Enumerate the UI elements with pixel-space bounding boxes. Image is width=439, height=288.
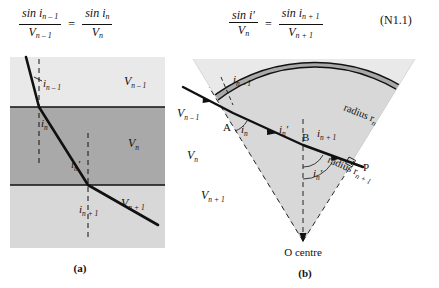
equation-left-rhs: sin in Vn: [82, 6, 112, 43]
equation-left-rhs-denominator: Vn: [82, 25, 112, 43]
panel-a-plane-layers: Vn – 1 Vn Vn + 1 in – 1 in in′ in + 1: [8, 55, 168, 250]
equation-left-rhs-numerator: sin in: [82, 6, 112, 25]
equation-right-lhs: sin i′ Vn: [229, 8, 258, 41]
equation-left-lhs-denominator: Vn – 1: [19, 25, 61, 43]
equation-right-rhs: sin in + 1 Vn + 1: [279, 6, 323, 43]
equation-right-rhs-numerator: sin in + 1: [279, 6, 323, 25]
panel-b-centre-label: O centre: [284, 246, 322, 258]
panel-b-caption: (b): [298, 267, 311, 279]
equation-right-relation: =: [263, 17, 274, 32]
panel-b-point-label-p: P: [363, 161, 369, 173]
equation-right-lhs-numerator: sin i′: [229, 8, 258, 23]
panel-a-caption: (a): [74, 262, 87, 274]
panel-b-velocity-label-bottom: Vn + 1: [201, 188, 225, 204]
equation-left-lhs-numerator: sin in – 1: [19, 6, 61, 25]
panel-b-point-label-b: B: [302, 131, 309, 143]
panel-b-point-label-a: A: [223, 121, 231, 133]
equation-left: sin in – 1 Vn – 1 = sin in Vn: [18, 6, 113, 43]
equation-left-relation: =: [66, 17, 77, 32]
equation-number: (N1.1): [380, 13, 412, 28]
panel-b-layer-bottom: [175, 67, 433, 260]
equation-right-lhs-denominator: Vn: [229, 23, 258, 41]
panel-b-spherical-layers: Vn – 1 Vn Vn + 1 radius rn radius rn + 1…: [175, 55, 433, 260]
equation-left-lhs: sin in – 1 Vn – 1: [19, 6, 61, 43]
figure-page: sin in – 1 Vn – 1 = sin in Vn sin i′ Vn …: [0, 0, 439, 288]
panel-b-velocity-label-middle: Vn: [187, 148, 198, 164]
equation-right: sin i′ Vn = sin in + 1 Vn + 1: [228, 6, 324, 43]
equation-right-rhs-denominator: Vn + 1: [279, 25, 323, 43]
panel-b-velocity-label-top: Vn – 1: [177, 106, 199, 122]
